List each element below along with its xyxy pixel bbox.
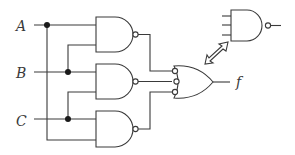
nand-gate-2 xyxy=(96,64,138,99)
equivalent-nand-symbol xyxy=(222,10,281,41)
input-label-a: A xyxy=(14,18,26,34)
wire-b xyxy=(34,45,96,72)
output-label-f: f xyxy=(235,74,244,90)
logic-circuit-diagram: A B C xyxy=(0,0,295,155)
junction-dot-a xyxy=(44,22,50,28)
internal-wires xyxy=(138,35,172,130)
wire-a xyxy=(34,25,96,140)
nand-gate-3 xyxy=(96,111,138,147)
input-label-c: C xyxy=(16,113,27,129)
or-gate-inverted-inputs xyxy=(172,66,213,98)
equivalence-double-arrow-icon xyxy=(205,42,228,64)
nand-gate-1 xyxy=(96,17,138,52)
input-label-b: B xyxy=(15,65,26,81)
junction-dot-b xyxy=(65,69,71,75)
junction-dot-c xyxy=(65,116,71,122)
wire-c xyxy=(34,92,96,119)
